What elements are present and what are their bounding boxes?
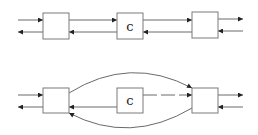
top-diagram: c [18,12,243,39]
box-R1 [192,12,218,38]
block-diagram: cc [0,0,258,135]
box-L1 [43,13,69,39]
box-label-C2: c [126,93,133,108]
bottom-diagram: c [18,73,243,128]
box-label-C1: c [126,19,133,34]
box-L2 [43,88,69,113]
box-R2 [192,88,218,113]
diagram-root: cc [18,12,243,128]
